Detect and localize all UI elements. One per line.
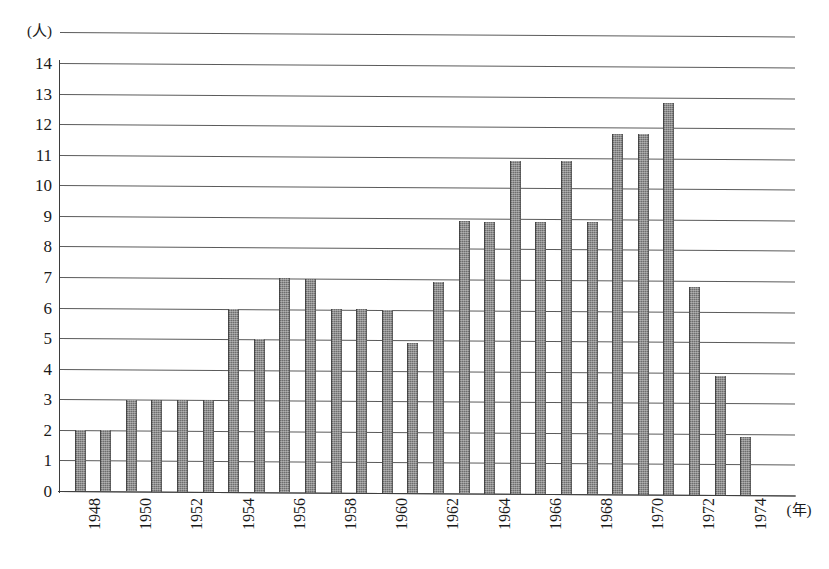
x-axis-tick-label: 1958 (343, 498, 359, 530)
bar (484, 222, 495, 494)
bar (228, 309, 239, 492)
bar (663, 103, 674, 494)
y-axis-tick-label: 14 (18, 55, 52, 72)
bar (75, 430, 86, 491)
x-axis-tick-label: 1972 (701, 498, 717, 530)
y-axis-unit-label: (人) (8, 24, 52, 39)
y-axis-tick-label: 5 (18, 330, 52, 347)
bar (382, 310, 393, 493)
bar (638, 134, 649, 495)
bars-group (60, 40, 795, 492)
y-axis-tick-label: 13 (18, 86, 52, 103)
y-axis-tick-label: 7 (18, 269, 52, 286)
y-axis-tick-label: 9 (18, 208, 52, 225)
y-axis-tick-label: 11 (18, 147, 52, 164)
bar (331, 309, 342, 492)
bar (407, 343, 418, 493)
bar (203, 400, 214, 492)
x-axis-tick-label: 1954 (241, 498, 257, 530)
bar (510, 161, 521, 494)
bar (740, 437, 751, 495)
bar (587, 222, 598, 494)
bar (535, 222, 546, 494)
x-axis-tick-label: 1956 (292, 498, 308, 530)
bar (254, 339, 265, 492)
y-axis-tick-label: 1 (18, 452, 52, 469)
y-axis-tick-label: 0 (18, 483, 52, 500)
plot-area (60, 40, 795, 492)
y-axis-tick-label: 10 (18, 177, 52, 194)
y-axis-tick-label: 2 (18, 422, 52, 439)
y-axis-tick-label: 4 (18, 361, 52, 378)
bar (100, 430, 111, 491)
bar (459, 221, 470, 493)
gridline-top (60, 32, 795, 37)
bar (279, 278, 290, 492)
x-axis-tick-label: 1966 (548, 498, 564, 530)
bar (715, 376, 726, 495)
x-axis-tick-label: 1960 (394, 498, 410, 530)
x-axis-tick-labels: 1948195019521954195619581960196219641966… (60, 495, 800, 569)
x-axis-tick-label: 1974 (753, 498, 769, 530)
bar (305, 279, 316, 493)
bar (689, 287, 700, 495)
x-axis-unit-label: (年) (787, 503, 812, 518)
x-axis-tick-label: 1952 (189, 498, 205, 530)
x-axis-tick-label: 1970 (650, 498, 666, 530)
bar (356, 309, 367, 492)
x-axis-tick-label: 1962 (445, 498, 461, 530)
bar (151, 400, 162, 492)
y-axis-tick-label: 6 (18, 300, 52, 317)
bar (126, 400, 137, 492)
bar (561, 161, 572, 494)
bar (612, 134, 623, 495)
y-axis-tick-label: 3 (18, 391, 52, 408)
bar (433, 282, 444, 493)
y-axis-tick-labels: 01234567891011121314(人) (0, 40, 52, 492)
x-axis-tick-label: 1948 (87, 498, 103, 530)
bar (177, 400, 188, 492)
y-axis-tick-label: 8 (18, 238, 52, 255)
x-axis-tick-label: 1968 (599, 498, 615, 530)
y-axis-tick-label: 12 (18, 116, 52, 133)
x-axis-tick-label: 1950 (138, 498, 154, 530)
bar-chart: 01234567891011121314(人) 1948195019521954… (0, 0, 829, 569)
x-axis-tick-label: 1964 (497, 498, 513, 530)
